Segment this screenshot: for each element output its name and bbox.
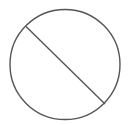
prohibited-symbol	[0, 0, 129, 125]
prohibited-slash	[26, 27, 105, 105]
prohibited-icon	[0, 0, 129, 125]
